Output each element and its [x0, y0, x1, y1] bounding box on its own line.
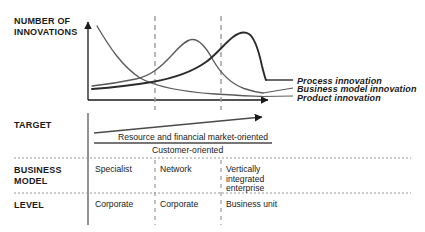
row-label-business-model-line1: BUSINESS: [14, 165, 62, 175]
cell-business-model-network: Network: [160, 165, 192, 175]
legend-label-product-innovation: Product innovation: [297, 93, 381, 103]
y-axis-title-line1: NUMBER OF: [14, 16, 70, 26]
cell-level-business-unit: Business unit: [226, 200, 277, 210]
cell-level-corporate-2: Corporate: [160, 200, 198, 210]
table-structure: [14, 113, 411, 225]
leader-line-product: [262, 96, 293, 97]
band-text-customer-oriented: Customer-oriented: [152, 146, 223, 156]
leader-line-business-model: [263, 88, 293, 93]
cell-business-model-specialist: Specialist: [95, 165, 132, 175]
y-axis-title-line2: INNOVATIONS: [14, 27, 77, 37]
cell-business-model-vertically-integrated-enterprise: Vertically integrated enterprise: [226, 165, 264, 194]
row-label-target: TARGET: [14, 120, 52, 130]
diagram-canvas: NUMBER OF INNOVATIONS Process innovation…: [0, 0, 425, 232]
curve-process-innovation: [92, 32, 266, 89]
legend-leader-lines: [262, 80, 293, 97]
cell-level-corporate-1: Corporate: [95, 200, 133, 210]
resource-band-arrow: [94, 117, 262, 133]
row-label-level: LEVEL: [14, 200, 44, 210]
band-text-resource-and-financial: Resource and financial market-oriented: [118, 133, 268, 143]
curve-business-model-innovation: [92, 39, 263, 93]
row-label-business-model-line2: MODEL: [14, 176, 48, 186]
